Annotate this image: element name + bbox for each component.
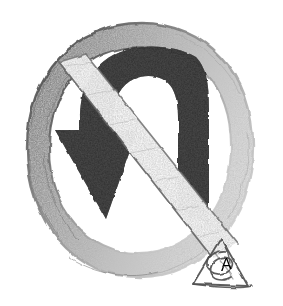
no-u-turn-icon: A [0, 0, 283, 306]
sketch-canvas: No U-Turn Hand-drawn no U-turn sign in p… [0, 0, 283, 306]
signature-glyph: A [221, 256, 232, 273]
